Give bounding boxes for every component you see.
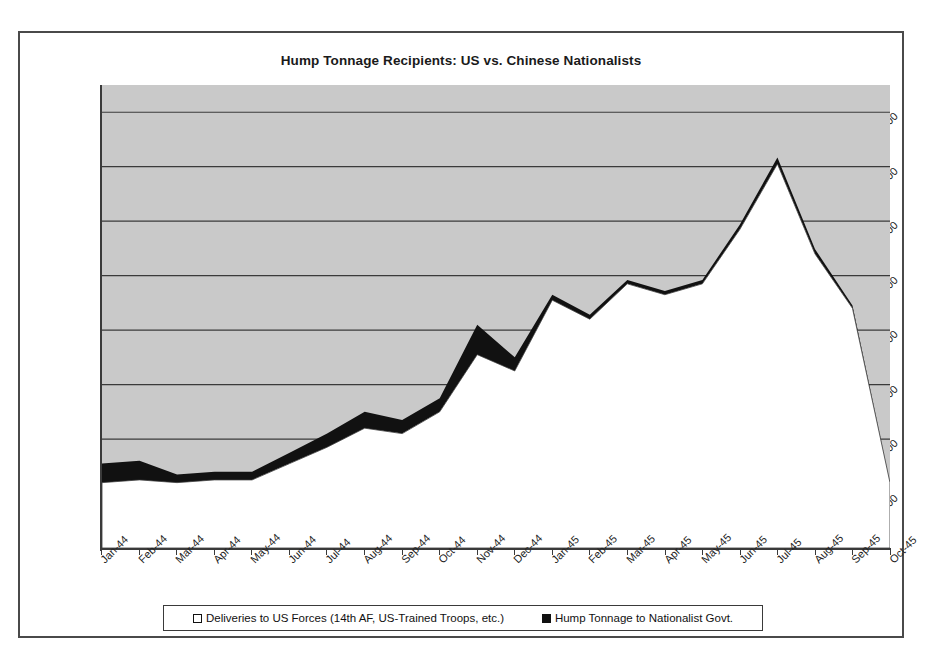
chart-legend: Deliveries to US Forces (14th AF, US-Tra… — [163, 605, 763, 631]
legend-item-us-forces[interactable]: Deliveries to US Forces (14th AF, US-Tra… — [193, 612, 504, 624]
x-axis-tick-label: Oct-45 — [887, 534, 919, 566]
chart-frame: Hump Tonnage Recipients: US vs. Chinese … — [18, 31, 904, 638]
plot-area — [101, 85, 890, 548]
y-axis-line — [100, 85, 102, 551]
legend-label-nationalist-govt: Hump Tonnage to Nationalist Govt. — [555, 612, 733, 624]
legend-swatch-filled-square — [542, 614, 551, 623]
legend-item-nationalist-govt[interactable]: Hump Tonnage to Nationalist Govt. — [542, 612, 733, 624]
chart-title: Hump Tonnage Recipients: US vs. Chinese … — [20, 53, 902, 68]
legend-swatch-open-square — [193, 614, 202, 623]
legend-label-us-forces: Deliveries to US Forces (14th AF, US-Tra… — [206, 612, 504, 624]
chart-page: Hump Tonnage Recipients: US vs. Chinese … — [0, 0, 929, 665]
area-chart-svg — [102, 85, 890, 548]
